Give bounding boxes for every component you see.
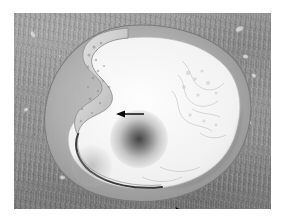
annotation-arrow-icon — [115, 107, 145, 121]
photomicrograph — [14, 13, 271, 209]
figure-root — [0, 0, 285, 224]
annotation-arrowhead-icon — [174, 206, 188, 209]
